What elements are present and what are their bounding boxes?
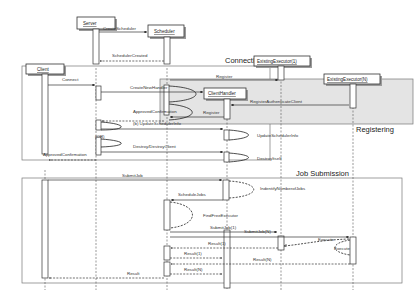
- svg-text:RegisterAuthenticateClient: RegisterAuthenticateClient: [250, 99, 303, 104]
- clienthandler-activation-submit: [224, 230, 230, 288]
- msg-result-nb: Result(N): [170, 267, 222, 274]
- svg-text:UpdateSchedulerInfo: UpdateSchedulerInfo: [257, 133, 299, 138]
- svg-text:ApprovedConfirmation: ApprovedConfirmation: [43, 152, 87, 157]
- svg-text:SubmitJob: SubmitJob: [122, 173, 143, 178]
- svg-text:CreateScheduler: CreateScheduler: [103, 26, 136, 31]
- svg-text:CreateNewHandler: CreateNewHandler: [130, 85, 168, 90]
- registering-frame: Registering: [160, 79, 413, 134]
- msg-execute-n: Execute: [334, 240, 350, 255]
- svg-text:ApprovedConfirmation: ApprovedConfirmation: [133, 109, 177, 114]
- scheduler-activation-update: [96, 120, 101, 130]
- svg-text:Result(1): Result(1): [208, 241, 226, 246]
- msg-connect: Connect: [48, 77, 95, 85]
- client-activation-job: [42, 180, 48, 278]
- svg-text:Execute: Execute: [318, 237, 334, 242]
- svg-text:Client: Client: [37, 67, 49, 72]
- svg-text:(b) UpdateSchedulerInfo: (b) UpdateSchedulerInfo: [133, 121, 181, 126]
- executor1-activation-job: [278, 236, 284, 250]
- svg-text:Connect: Connect: [62, 77, 79, 82]
- msg-identify-number-of-jobs: IndentifyNumberofJobs: [229, 181, 306, 198]
- svg-text:Register: Register: [216, 74, 233, 79]
- svg-text:FindFreeExecutor: FindFreeExecutor: [203, 213, 238, 218]
- svg-text:Scheduler: Scheduler: [154, 29, 175, 34]
- scheduler-activation-connect: [96, 86, 101, 100]
- msg-destroy: Destroy/DestroyClient: [101, 139, 176, 149]
- svg-text:SubmitJob(N): SubmitJob(N): [244, 229, 271, 234]
- scheduler-activation-destroy: [96, 137, 101, 155]
- scheduler-activation-schedule: [164, 200, 170, 230]
- svg-text:Destroy/DestroyClient: Destroy/DestroyClient: [133, 144, 176, 149]
- msg-destroy-itself: DestroyItself: [229, 153, 282, 162]
- svg-text:Register: Register: [203, 110, 220, 115]
- svg-text:ClientHandler: ClientHandler: [208, 91, 236, 96]
- msg-create-scheduler: CreateScheduler: [99, 26, 147, 32]
- msg-submit-job: SubmitJob: [48, 173, 222, 180]
- svg-text:Result(N): Result(N): [184, 267, 203, 272]
- msg-approve-confirmation-client: ApprovedConfirmation: [43, 152, 96, 160]
- scheduler-activation-result1: [164, 246, 170, 260]
- clienthandler-activation-identify: [223, 180, 229, 200]
- msg-scheduler-created: SchedulerCreated: [100, 53, 164, 61]
- msg-schedule-jobs: ScheduleJobs: [171, 192, 223, 200]
- sequence-diagram: Connection Registering Job Submission Se…: [0, 0, 416, 302]
- executor1-activation: [278, 66, 284, 80]
- clienthandler-activation-update: [224, 130, 229, 140]
- svg-text:ExistingExecutor(1): ExistingExecutor(1): [257, 59, 297, 64]
- job-submission-frame-label: Job Submission: [296, 169, 349, 178]
- msg-result: Result: [49, 271, 164, 278]
- registering-frame-label: Registering: [356, 125, 394, 134]
- client-activation-connection: [42, 74, 48, 154]
- svg-text:Result: Result: [127, 271, 140, 276]
- svg-text:Result(1): Result(1): [184, 251, 202, 256]
- svg-text:Execute: Execute: [334, 246, 350, 251]
- svg-text:SchedulerCreated: SchedulerCreated: [112, 53, 148, 58]
- scheduler-activation: [164, 37, 170, 64]
- msg-result-1b: Result(1): [170, 251, 222, 258]
- executorN-activation-job: [350, 237, 356, 264]
- svg-text:ScheduleJobs: ScheduleJobs: [178, 192, 206, 197]
- svg-text:Result(N): Result(N): [253, 257, 272, 262]
- server-activation: [93, 29, 99, 64]
- or-label: (OR): [95, 134, 105, 139]
- svg-text:Server: Server: [83, 21, 97, 26]
- msg-execute-1: Execute: [284, 237, 349, 246]
- msg-update-scheduler-info: UpdateSchedulerInfo: [229, 130, 299, 140]
- clienthandler-activation-destroy: [224, 152, 229, 162]
- executorN-activation: [350, 84, 356, 108]
- svg-text:IndentifyNumberofJobs: IndentifyNumberofJobs: [260, 186, 306, 191]
- clienthandler-activation: [224, 99, 230, 119]
- scheduler-activation-resultN: [164, 262, 170, 276]
- svg-text:DestroyItself: DestroyItself: [257, 156, 282, 161]
- svg-text:SubmitJob(1): SubmitJob(1): [210, 225, 237, 230]
- svg-text:ExistingExecutor(N): ExistingExecutor(N): [327, 77, 368, 82]
- msg-submit-job-n: SubmitJob(N): [170, 229, 349, 237]
